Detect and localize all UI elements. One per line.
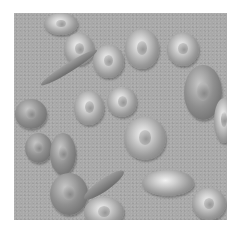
red-blood-cell (93, 45, 124, 78)
red-blood-cell (84, 197, 124, 220)
red-blood-cell (44, 13, 78, 35)
red-blood-cell (50, 133, 76, 175)
red-blood-cell (192, 188, 226, 220)
red-blood-cell (167, 33, 199, 66)
red-blood-cell (25, 133, 52, 163)
red-blood-cell (74, 91, 104, 125)
blood-cell-illustration (14, 13, 227, 220)
red-blood-cell (107, 87, 137, 117)
red-blood-cell (124, 117, 166, 160)
red-blood-cell (125, 29, 159, 69)
red-blood-cell (15, 99, 47, 129)
red-blood-cell (50, 173, 88, 215)
red-blood-cell (214, 98, 227, 143)
red-blood-cell (142, 170, 194, 196)
